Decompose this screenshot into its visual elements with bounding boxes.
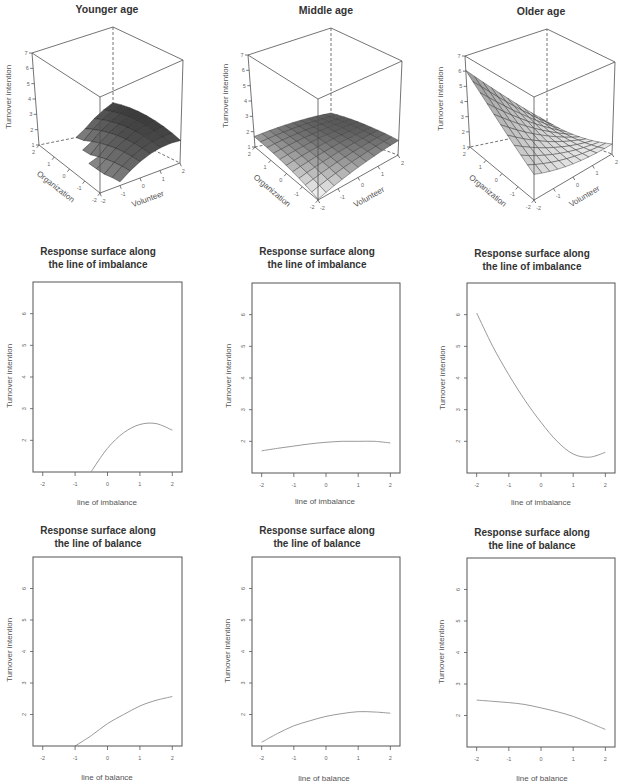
plot-frame [33,557,182,746]
organization-tick [37,145,39,148]
z-tick-label: 4 [244,98,247,104]
box-edge [32,27,113,53]
organization-tick [268,160,270,163]
plot-frame [252,283,400,473]
panel-title: Younger age [76,3,139,15]
plot-title-line-2: the line of balance [488,540,576,551]
y-axis-label: Turnover intention [438,346,447,410]
organization-tick [83,181,85,184]
organization-tick-label: 1 [263,164,266,170]
x-tick-label: 0 [539,482,542,488]
box-edge [248,55,318,99]
organization-axis-label: Organization [467,173,508,209]
z-axis-label: Turnover intention [436,67,445,131]
x-tick-label: 2 [171,755,174,761]
z-tick-label: 7 [24,50,27,56]
y-tick-label: 4 [455,651,461,654]
y-tick-label: 2 [240,440,246,443]
volunteer-tick-label: -1 [556,193,561,199]
x-axis-label: line of imbalance [511,498,572,507]
y-tick-label: 5 [21,618,27,621]
z-tick-label: 2 [246,129,249,135]
y-axis-label: Turnover intention [223,619,232,683]
plot-title-line-1: Response surface along [474,527,590,538]
response-curve [262,441,391,451]
x-tick-label: 1 [572,756,575,762]
x-tick-label: -2 [40,481,45,487]
organization-tick [468,147,470,150]
z-tick-label: 4 [28,96,31,102]
plot-title-line-1: Response surface along [259,246,375,257]
plot-frame [252,557,400,746]
box-edge [612,62,615,154]
x-tick-label: -1 [73,755,78,761]
organization-tick [284,174,286,177]
organization-tick [52,157,54,160]
y-tick-label: 4 [21,650,27,653]
z-tick-label: 7 [240,52,243,58]
volunteer-tick-label: 2 [182,168,185,174]
x-tick-label: 1 [138,755,141,761]
volunteer-tick-label: 0 [142,183,145,189]
panel-older-balance: 23456-2-1012 Response surface along the … [437,527,615,783]
z-tick-label: 3 [245,113,248,119]
panel-younger-surface: 1234567210-1-2-2-1012 Younger age Turnov… [4,3,185,209]
y-tick-label: 6 [455,313,461,316]
organization-tick [500,174,502,177]
organization-tick-label: -1 [294,191,299,197]
x-tick-label: 0 [106,755,109,761]
volunteer-tick-label: 1 [381,171,384,177]
volunteer-tick [534,200,536,203]
organization-tick-label: 0 [495,177,498,183]
panel-title: Middle age [299,4,353,16]
plot-title-line-2: the line of balance [54,538,142,549]
box-edge [331,28,402,61]
x-tick-label: 1 [357,482,360,488]
y-tick-label: 4 [240,376,246,379]
y-tick-label: 3 [240,681,246,684]
panel-middle-imbalance: 23456-2-1012 Response surface along the … [224,246,400,506]
x-tick-label: 0 [106,481,109,487]
y-tick-label: 6 [240,313,246,316]
volunteer-tick-label: 1 [596,170,599,176]
volunteer-tick [318,200,320,203]
volunteer-tick [378,166,380,169]
x-tick-label: 2 [604,756,607,762]
x-tick-label: 1 [572,482,575,488]
volunteer-tick [160,171,161,174]
z-tick-label: 3 [461,114,464,120]
y-tick-label: 2 [455,440,461,443]
x-tick-label: -2 [40,755,45,761]
z-tick-label: 1 [247,144,250,150]
volunteer-tick-label: 1 [162,176,165,182]
box-edge [465,56,534,97]
organization-tick [484,160,486,163]
z-axis-label: Turnover intention [221,64,230,128]
x-tick-label: -1 [506,482,511,488]
y-tick-label: 3 [21,407,27,410]
box-edge [465,29,547,56]
response-curve [477,313,606,457]
figure-grid: 1234567210-1-2-2-1012 Younger age Turnov… [0,0,620,784]
y-tick-label: 6 [21,587,27,590]
volunteer-tick [338,189,340,192]
x-tick-label: 0 [324,755,327,761]
volunteer-tick-label: -1 [340,194,345,200]
plot-title-line-1: Response surface along [474,248,590,259]
x-tick-label: 0 [324,482,327,488]
volunteer-tick-label: -2 [101,198,106,204]
x-axis-label: line of balance [298,774,350,783]
z-tick-label: 2 [462,129,465,135]
plot-title-line-1: Response surface along [40,525,156,536]
z-tick-label: 5 [243,83,246,89]
plot-frame [467,283,615,473]
x-tick-label: -2 [259,755,264,761]
plot-frame [33,282,182,472]
organization-tick [300,187,302,190]
x-tick-label: -2 [474,482,479,488]
x-tick-label: -1 [291,755,296,761]
x-tick-label: -1 [73,481,78,487]
volunteer-tick-label: 2 [615,159,618,165]
box-edge [113,27,183,60]
organization-tick [253,147,255,150]
